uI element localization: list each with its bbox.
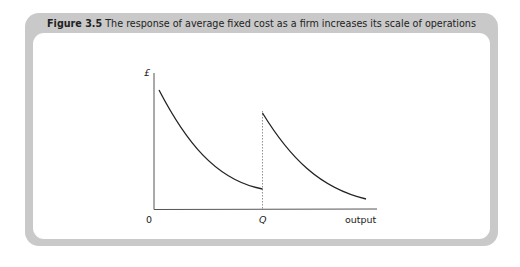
- afc-curve-2: [263, 113, 367, 199]
- y-axis-label: £: [144, 67, 150, 78]
- afc-curve-1: [159, 90, 263, 189]
- x-axis: [154, 209, 377, 210]
- chart-plot: [0, 0, 520, 267]
- q-label: Q: [259, 214, 266, 225]
- x-axis-label: output: [345, 214, 376, 225]
- origin-label: 0: [146, 214, 152, 225]
